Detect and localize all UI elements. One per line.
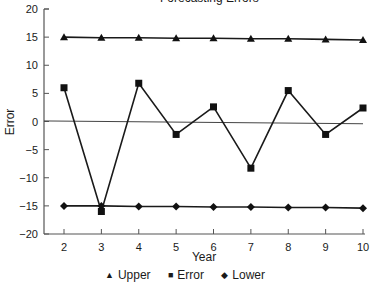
square-icon: ■ [168, 270, 173, 280]
y-tick-label: −5 [25, 144, 38, 156]
diamond-icon: ◆ [221, 270, 228, 280]
square-marker [61, 84, 68, 91]
legend-item-error: ■Error [168, 268, 204, 282]
legend-item-lower: ◆Lower [221, 268, 265, 282]
x-tick-label: 7 [248, 241, 254, 253]
x-tick-label: 2 [61, 241, 67, 253]
legend-label-error: Error [177, 268, 204, 282]
chart-title: Forecasting Errors [160, 0, 259, 5]
y-tick-label: −20 [19, 228, 38, 240]
y-tick-label: 0 [32, 116, 38, 128]
diamond-marker [322, 204, 330, 212]
triangle-icon: ▲ [105, 270, 114, 280]
diamond-marker [135, 202, 143, 210]
square-marker [173, 131, 180, 138]
diamond-marker [172, 202, 180, 210]
square-marker [285, 87, 292, 94]
y-axis-title: Error [3, 109, 17, 136]
x-tick-label: 4 [136, 241, 142, 253]
diamond-marker [210, 203, 218, 211]
x-tick-label: 3 [98, 241, 104, 253]
square-marker [135, 80, 142, 87]
y-tick-label: −10 [19, 172, 38, 184]
diamond-marker [284, 204, 292, 212]
x-tick-label: 9 [323, 241, 329, 253]
y-tick-label: 5 [32, 87, 38, 99]
y-tick-label: 10 [26, 59, 38, 71]
y-tick-label: 15 [26, 31, 38, 43]
legend-item-upper: ▲Upper [105, 268, 151, 282]
y-tick-label: 20 [26, 3, 38, 15]
legend-label-lower: Lower [232, 268, 265, 282]
y-tick-label: −15 [19, 200, 38, 212]
x-tick-label: 10 [357, 241, 369, 253]
x-tick-label: 8 [285, 241, 291, 253]
series-line-error [64, 83, 363, 211]
diamond-marker [247, 203, 255, 211]
square-marker [360, 105, 367, 112]
x-tick-label: 5 [173, 241, 179, 253]
diamond-marker [60, 202, 68, 210]
line-chart: Forecasting Errors20151050−5−10−15−20234… [0, 0, 370, 284]
x-axis-title: Year [192, 250, 216, 264]
legend: ▲Upper ■Error ◆Lower [0, 268, 370, 282]
diamond-marker [359, 204, 367, 212]
square-marker [247, 165, 254, 172]
legend-label-upper: Upper [118, 268, 151, 282]
square-marker [322, 131, 329, 138]
square-marker [210, 103, 217, 110]
